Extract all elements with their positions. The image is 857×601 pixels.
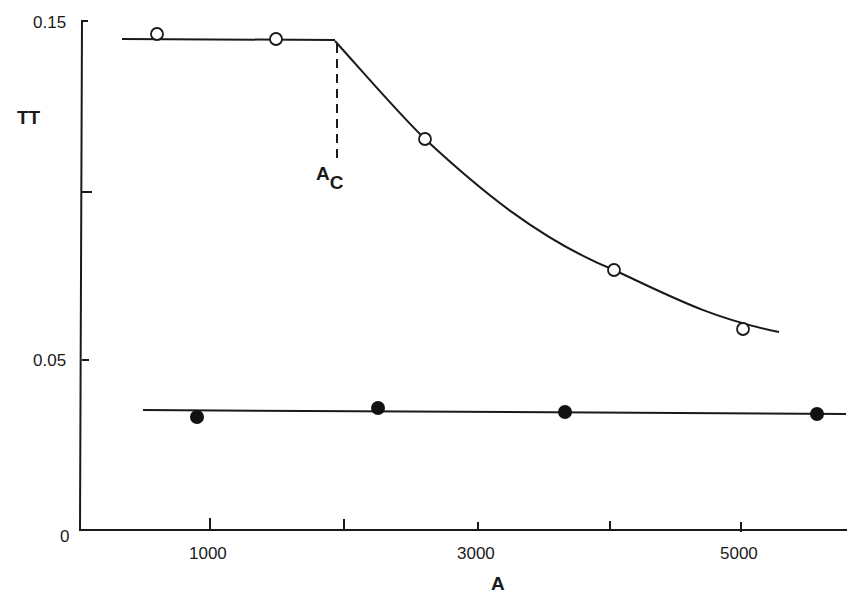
open-point	[151, 28, 163, 40]
y-tick-label-015: 0.15	[33, 13, 66, 32]
x-axis-title: A	[491, 573, 505, 594]
y-axis-title: TT	[17, 107, 41, 128]
x-tick-label-5000: 5000	[720, 544, 758, 563]
filled-point	[190, 410, 204, 424]
filled-point	[371, 401, 385, 415]
open-series-fit	[122, 39, 779, 332]
chart: 0.15 0.05 0 1000 3000 5000 TT A AC	[0, 0, 857, 601]
axes	[80, 21, 847, 532]
x-tick-label-1000: 1000	[189, 544, 227, 563]
open-point	[270, 33, 282, 45]
open-point	[419, 133, 431, 145]
y-tick-label-0: 0	[60, 527, 69, 546]
ac-label: AC	[316, 163, 344, 193]
open-point	[737, 323, 749, 335]
filled-point	[810, 407, 824, 421]
y-tick-label-005: 0.05	[33, 351, 66, 370]
filled-series-fit	[143, 410, 846, 414]
open-point	[608, 264, 620, 276]
axis-lines	[80, 21, 847, 530]
x-tick-label-3000: 3000	[457, 544, 495, 563]
open-circle-markers	[151, 28, 749, 335]
filled-point	[558, 405, 572, 419]
